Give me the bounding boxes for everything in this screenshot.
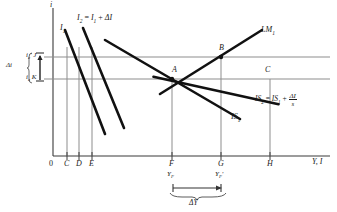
is-curve-2-label: IS2 = IS1 + ΔIs: [255, 92, 297, 108]
delta-i-label: Δi: [6, 62, 12, 69]
x-tick-label-C: C: [64, 160, 69, 168]
x-tick-label-D: D: [76, 160, 82, 168]
is2-eq: =: [264, 94, 272, 103]
lm-curves: [160, 30, 262, 94]
lm1-base: LM: [261, 25, 272, 34]
investment-curve-1-line: [65, 30, 105, 134]
is2-plus: +: [281, 94, 289, 103]
point-marker-B: [219, 55, 223, 59]
is1-base: IS: [231, 112, 238, 121]
figure-canvas: i Y, I 0 C D E F G H ie' J ie K Δi I1 I2…: [0, 0, 337, 212]
investment-curve-1-label: I1: [60, 24, 65, 34]
equilibrium-point-label-A: A: [172, 66, 177, 74]
delta-y-label: ΔY: [189, 199, 198, 207]
rate-sub-K: e: [28, 77, 30, 82]
x-tick-label-E: E: [89, 160, 94, 168]
i2-eq: =: [82, 13, 91, 22]
yf-sub: F: [171, 174, 174, 179]
output-label-yf: YF: [167, 171, 174, 180]
investment-curves: [65, 28, 124, 134]
is-curve-1-label: IS1: [231, 113, 240, 123]
point-marker-A: [170, 77, 174, 81]
yfp-prime: ': [222, 170, 224, 178]
y-axis-label: i: [50, 1, 52, 9]
x-tick-label-origin: 0: [49, 160, 53, 168]
lm1-sub: 1: [272, 30, 275, 36]
point-label-J: J: [33, 51, 36, 59]
x-tick-label-G: G: [218, 160, 224, 168]
equilibrium-point-label-C: C: [265, 66, 270, 74]
axes-group: [53, 8, 330, 156]
delta-y-brace: [170, 193, 226, 200]
delta-i-arrow-head-up: [37, 55, 42, 60]
is2-fraction-denominator: s: [289, 100, 297, 107]
investment-curve-2-line: [83, 28, 124, 128]
delta-y-measure-group: [170, 184, 226, 200]
is1-sub: 1: [238, 117, 241, 123]
is2-fraction-numerator: ΔI: [289, 92, 297, 100]
output-label-yf-prime: YF': [215, 171, 223, 180]
i2-delta: ΔI: [105, 13, 112, 22]
lm-curve-1-label: LM1: [261, 26, 275, 36]
investment-curve-2-label: I2 = I1 + ΔI: [77, 14, 112, 24]
x-tick-label-H: H: [267, 160, 273, 168]
interest-level-label-J: ie' J: [26, 52, 36, 61]
x-axis-label: Y, I: [312, 158, 322, 166]
point-label-K: K: [32, 73, 37, 81]
x-tick-label-F: F: [169, 160, 174, 168]
i2-plus: +: [96, 13, 105, 22]
lm-curve-1-line: [160, 30, 262, 94]
interest-level-label-K: ie K: [26, 74, 36, 83]
i1-sub: 1: [63, 28, 66, 34]
is2-fraction: ΔIs: [289, 92, 297, 108]
rate-prime-J: ': [30, 51, 32, 59]
equilibrium-point-label-B: B: [219, 44, 224, 52]
